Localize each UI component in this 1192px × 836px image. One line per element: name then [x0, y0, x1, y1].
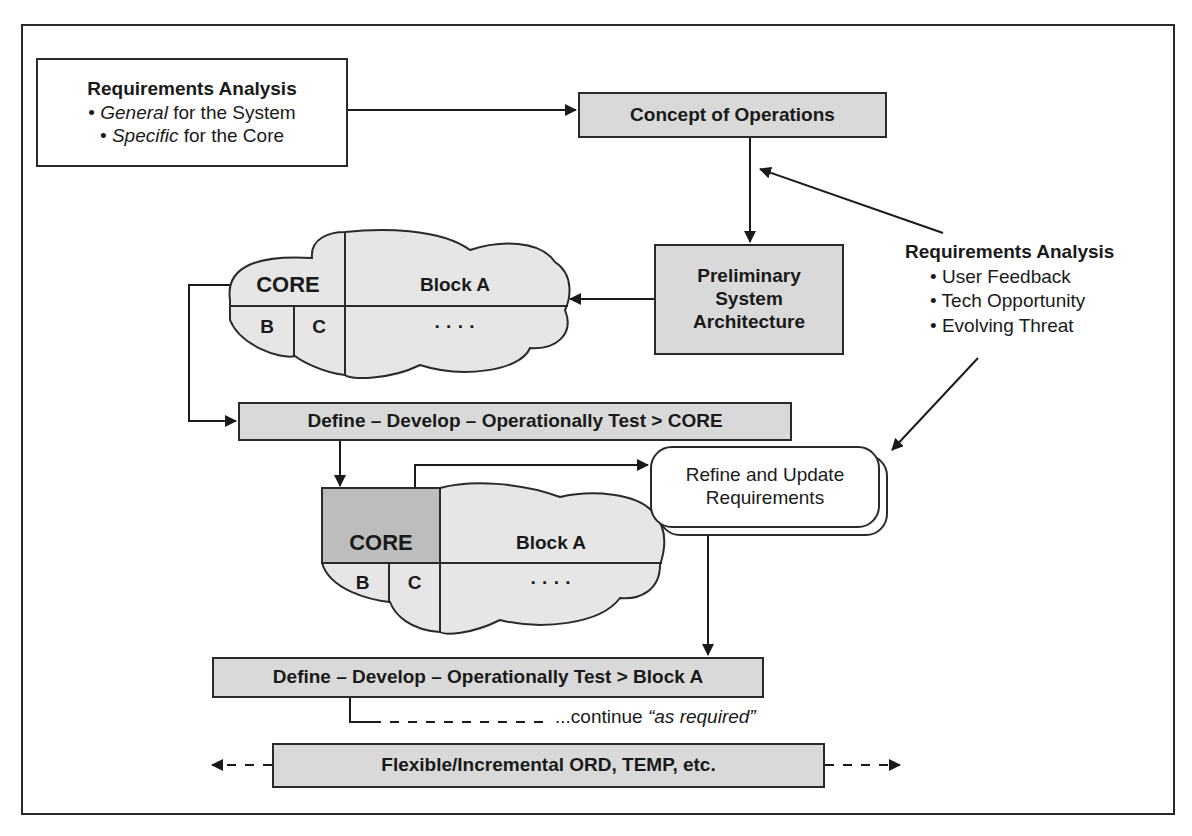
req-specific-rest: for the Core [178, 125, 284, 146]
cloud-2 [322, 483, 664, 633]
prelim-line2: System [715, 288, 783, 311]
arrow-feedback-to-concept [760, 169, 943, 233]
arrow-cloud2-to-refine [415, 465, 648, 488]
cloud2-dots: · · · · [440, 572, 662, 594]
continue-prefix: ...continue [555, 706, 648, 727]
continue-as-required: ...continue “as required” [555, 706, 756, 728]
arrow-feedback-to-refine [892, 358, 978, 450]
req-general-rest: for the System [168, 102, 296, 123]
right-req-item-tech-opportunity: • Tech Opportunity [905, 289, 1114, 314]
continue-connector [350, 697, 372, 722]
define-core-label: Define – Develop – Operationally Test > … [307, 410, 722, 433]
concept-label: Concept of Operations [630, 104, 835, 127]
prelim-line1: Preliminary [697, 265, 801, 288]
cloud2-c-label: C [389, 572, 440, 594]
right-req-item-evolving-threat: • Evolving Threat [905, 314, 1114, 339]
cloud1-c-label: C [294, 316, 344, 338]
cloud1-block-a-label: Block A [345, 274, 565, 296]
cloud2-block-a-label: Block A [440, 532, 662, 554]
bullet: • [88, 102, 95, 123]
cloud1-b-label: B [240, 316, 294, 338]
req-general-em: General [100, 102, 168, 123]
flexible-incremental-bar: Flexible/Incremental ORD, TEMP, etc. [272, 743, 825, 788]
prelim-line3: Architecture [693, 311, 805, 334]
req-general: • General for the System [88, 101, 295, 125]
req-title: Requirements Analysis [87, 77, 296, 101]
cloud1-core-label: CORE [232, 272, 344, 298]
req-specific-em: Specific [112, 125, 179, 146]
flexible-incremental-label: Flexible/Incremental ORD, TEMP, etc. [381, 754, 715, 777]
define-block-a-bar: Define – Develop – Operationally Test > … [212, 657, 764, 698]
define-block-a-label: Define – Develop – Operationally Test > … [273, 666, 703, 689]
refine-line1: Refine and Update [686, 464, 844, 487]
refine-line2: Requirements [706, 487, 824, 510]
cloud2-b-label: B [336, 572, 389, 594]
right-requirements-analysis: Requirements Analysis • User Feedback • … [905, 240, 1114, 339]
right-req-title: Requirements Analysis [905, 240, 1114, 265]
continue-emphasis: “as required” [648, 706, 756, 727]
cloud1-dots: · · · · [345, 316, 565, 338]
requirements-analysis-box: Requirements Analysis • General for the … [36, 58, 348, 167]
refine-update-requirements-box: Refine and Update Requirements [650, 446, 880, 528]
concept-of-operations-box: Concept of Operations [578, 92, 887, 138]
req-specific: • Specific for the Core [100, 124, 284, 148]
preliminary-architecture-box: Preliminary System Architecture [654, 244, 844, 355]
cloud-1 [230, 230, 570, 378]
cloud2-core-label: CORE [322, 530, 440, 556]
right-req-item-user-feedback: • User Feedback [905, 265, 1114, 290]
bullet: • [100, 125, 107, 146]
arrow-cloud-to-define-core [189, 285, 236, 421]
define-core-bar: Define – Develop – Operationally Test > … [238, 402, 792, 441]
